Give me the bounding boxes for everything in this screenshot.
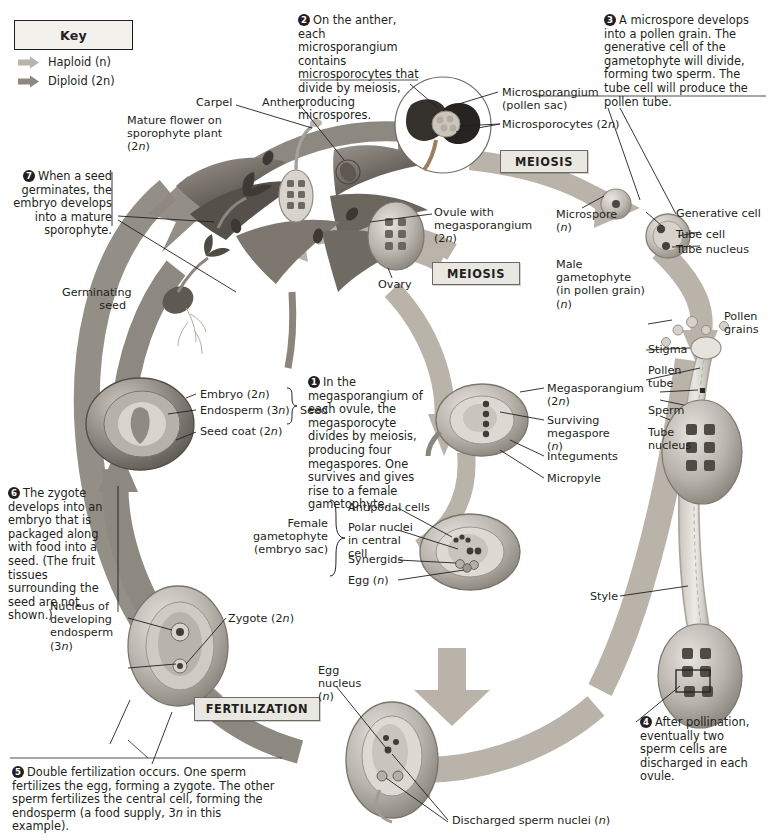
germinating-seed-illustration <box>118 172 272 354</box>
step-5-text: Double fertilization occurs. One sperm f… <box>12 765 274 833</box>
label-stigma: Stigma <box>648 343 687 356</box>
label-micropyle: Micropyle <box>547 472 601 485</box>
label-embryo: Embryo (2n) <box>200 388 270 401</box>
key-title: Key <box>60 28 87 43</box>
step-5: 5Double fertilization occurs. One sperm … <box>12 766 276 834</box>
label-egg-nucleus: Egg nucleus (n) <box>318 664 376 704</box>
label-zygote: Zygote (2n) <box>228 612 294 625</box>
label-integuments: Integuments <box>547 450 618 463</box>
step-6-number: 6 <box>8 487 20 499</box>
angiosperm-life-cycle-figure: Key Haploid (n) Diploid (2n) MEIOSIS MEI… <box>0 0 768 840</box>
key-label-haploid: Haploid (n) <box>48 55 111 69</box>
label-female-gametophyte: Female gametophyte (embryo sac) <box>222 517 328 557</box>
step-2-text: On the anther, each microsporangium cont… <box>298 13 419 122</box>
label-tube-nucleus-top: Tube nucleus <box>676 243 749 256</box>
label-ovary: Ovary <box>378 278 412 291</box>
meiosis-anther-label: MEIOSIS <box>515 155 573 169</box>
label-carpel: Carpel <box>196 96 232 109</box>
label-anther: Anther <box>262 96 300 109</box>
fertilization-label: FERTILIZATION <box>206 702 309 716</box>
key-label-diploid: Diploid (2n) <box>48 74 115 88</box>
label-germinating-seed: Germinating seed <box>62 286 126 312</box>
label-endosperm: Endosperm (3n) <box>200 404 290 417</box>
fertilization-box: FERTILIZATION <box>194 697 320 721</box>
ovule-megasporangium-illustration <box>428 384 544 478</box>
fertilized-ovule-illustration <box>336 686 448 822</box>
step-4: 4After pollination, eventually two sperm… <box>640 716 762 784</box>
label-microspore: Microspore (n) <box>556 208 636 234</box>
label-tube-nucleus-side: Tube nucleus <box>648 426 692 452</box>
ovary-illustration <box>368 202 432 278</box>
mature-flower-illustration <box>176 119 430 368</box>
label-sperm: Sperm <box>648 404 684 417</box>
step-2: 2On the anther, each microsporangium con… <box>298 14 420 123</box>
zygote-endosperm-illustration <box>128 586 228 706</box>
label-synergids: Synergids <box>348 553 403 566</box>
label-microsporocytes: Microsporocytes (2n) <box>502 118 619 131</box>
key-entry-haploid: Haploid (n) <box>18 55 111 69</box>
label-seed-coat: Seed coat (2n) <box>200 425 282 438</box>
step-3-number: 3 <box>604 14 616 26</box>
label-pollen-grains: Pollen grains <box>724 310 768 336</box>
meiosis-ovule-label: MEIOSIS <box>447 267 505 281</box>
label-ovule: Ovule with megasporangium (2n) <box>434 206 546 246</box>
label-mature-flower: Mature flower on sporophyte plant (2n) <box>127 114 225 154</box>
step-3: 3A microspore develops into a pollen gra… <box>604 14 764 109</box>
label-microsporangium: Microsporangium (pollen sac) <box>502 86 614 112</box>
label-tube-cell: Tube cell <box>676 228 725 241</box>
step-2-number: 2 <box>298 14 310 26</box>
label-surviving-megaspore: Surviving megaspore (n) <box>547 414 625 454</box>
meiosis-box-anther: MEIOSIS <box>500 150 588 173</box>
key-entry-diploid: Diploid (2n) <box>18 74 115 88</box>
label-egg-n: Egg (n) <box>348 574 389 587</box>
meiosis-box-ovule: MEIOSIS <box>432 262 520 285</box>
step-3-text: A microspore develops into a pollen grai… <box>604 13 749 109</box>
diploid-arrow-icon <box>18 75 40 88</box>
step-1-text: In the megasporangium of each ovule, the… <box>308 375 423 511</box>
label-pollen-tube: Pollen tube <box>648 364 692 390</box>
label-seed-bracket: Seed <box>300 404 328 417</box>
step-1: 1In the megasporangium of each ovule, th… <box>308 376 436 512</box>
label-antipodal-cells: Antipodal cells <box>348 501 430 514</box>
step-7-number: 7 <box>23 170 35 182</box>
key-box: Key <box>14 20 133 50</box>
label-style: Style <box>590 590 618 603</box>
step-5-number: 5 <box>12 766 24 778</box>
label-megasporangium: Megasporangium (2n) <box>547 382 641 408</box>
step-7: 7When a seed germinates, the embryo deve… <box>8 170 112 238</box>
haploid-arrow-icon <box>18 56 40 69</box>
label-male-gametophyte: Male gametophyte (in pollen grain) (n) <box>556 258 648 311</box>
step-4-text: After pollination, eventually two sperm … <box>640 715 749 783</box>
label-nucleus-endosperm: Nucleus of developing endosperm (3n) <box>50 600 126 653</box>
step-4-number: 4 <box>640 716 652 728</box>
step-1-number: 1 <box>308 376 320 388</box>
label-discharged-sperm: Discharged sperm nuclei (n) <box>452 814 610 827</box>
label-generative-cell: Generative cell <box>676 207 761 220</box>
